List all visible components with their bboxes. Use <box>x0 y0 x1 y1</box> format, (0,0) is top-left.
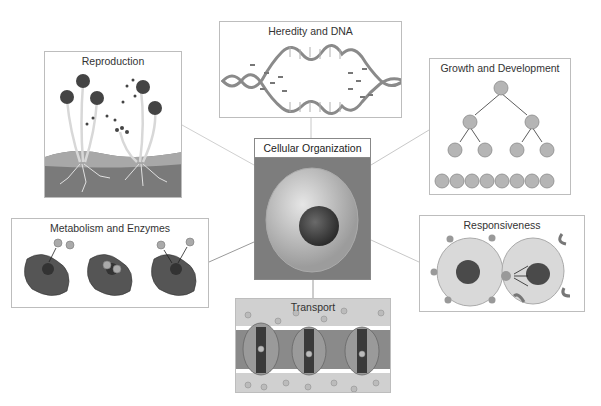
dna-double-helix-icon <box>220 22 402 118</box>
enzyme-substrate-icon <box>12 219 209 308</box>
cell-division-tree-icon <box>430 59 571 195</box>
cell-signaling-icon <box>420 216 585 312</box>
panel-cellular-organization: Cellular Organization <box>254 138 371 280</box>
panel-title: Transport <box>236 301 390 313</box>
center-title: Cellular Organization <box>255 139 370 158</box>
membrane-transport-icon <box>236 299 391 393</box>
panel-reproduction: Reproduction <box>44 51 182 198</box>
panel-responsiveness: Responsiveness <box>419 215 585 312</box>
fungus-sporangia-icon <box>45 52 182 198</box>
panel-transport: Transport <box>235 298 391 393</box>
cell-icon <box>255 158 370 280</box>
panel-heredity-dna: Heredity and DNA <box>219 21 402 118</box>
panel-growth-development: Growth and Development <box>429 58 571 195</box>
panel-metabolism-enzymes: Metabolism and Enzymes <box>11 218 209 308</box>
